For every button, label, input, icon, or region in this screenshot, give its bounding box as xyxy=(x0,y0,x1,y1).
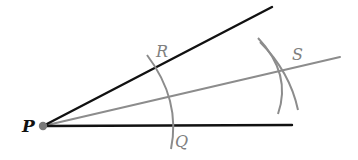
upper-ray xyxy=(43,7,272,126)
lower-ray xyxy=(43,125,292,126)
label-s: S xyxy=(292,45,303,64)
label-q: Q xyxy=(175,132,188,151)
label-p: P xyxy=(21,116,36,136)
vertex-point-p xyxy=(39,122,47,130)
bisector-ray-ps xyxy=(43,57,340,126)
angle-bisector-diagram: P R Q S xyxy=(0,0,358,160)
label-r: R xyxy=(155,42,168,61)
